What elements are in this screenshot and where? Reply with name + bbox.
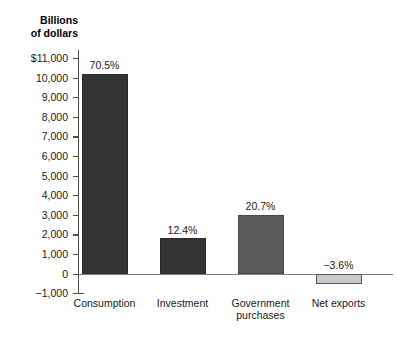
y-axis-line xyxy=(78,50,79,294)
bar-value-label: 70.5% xyxy=(60,59,150,71)
y-axis-tick-mark xyxy=(73,136,79,137)
y-axis-tick-label: 7,000 xyxy=(0,130,68,142)
x-axis-category-label: Net exports xyxy=(291,297,387,309)
bar-chart: Billions of dollars $11,00010,0009,0008,… xyxy=(0,0,397,337)
y-axis-tick-mark xyxy=(73,215,79,216)
y-axis-tick-label: 5,000 xyxy=(0,169,68,181)
y-axis-tick-mark xyxy=(73,117,79,118)
y-axis-tick-label: 1,000 xyxy=(0,248,68,260)
y-axis-tick-mark xyxy=(73,274,79,275)
y-axis-tick-label: 6,000 xyxy=(0,150,68,162)
bar xyxy=(82,74,128,274)
y-axis-tick-mark xyxy=(73,254,79,255)
y-axis-tick-mark xyxy=(73,78,79,79)
y-axis-foot xyxy=(78,293,84,294)
y-axis-tick-label: 4,000 xyxy=(0,189,68,201)
y-axis-tick-label: 10,000 xyxy=(0,71,68,83)
bar-value-label: 20.7% xyxy=(216,200,306,212)
y-axis-tick-mark xyxy=(73,234,79,235)
y-axis-tick-mark xyxy=(73,195,79,196)
bar-value-label: −3.6% xyxy=(294,259,384,271)
y-axis-tick-mark xyxy=(73,293,79,294)
bar xyxy=(238,215,284,274)
y-axis-tick-mark xyxy=(73,176,79,177)
y-axis-title: Billions of dollars xyxy=(4,14,78,39)
y-axis-tick-label: 9,000 xyxy=(0,91,68,103)
y-axis-tick-label: 8,000 xyxy=(0,110,68,122)
y-axis-tick-mark xyxy=(73,97,79,98)
bar-value-label: 12.4% xyxy=(138,224,228,236)
y-axis-tick-label: 3,000 xyxy=(0,208,68,220)
y-axis-tick-mark xyxy=(73,156,79,157)
bar xyxy=(316,274,362,284)
y-axis-tick-label: 2,000 xyxy=(0,228,68,240)
y-axis-tick-label: $11,000 xyxy=(0,52,68,64)
bar xyxy=(160,238,206,273)
y-axis-tick-label: 0 xyxy=(0,267,68,279)
